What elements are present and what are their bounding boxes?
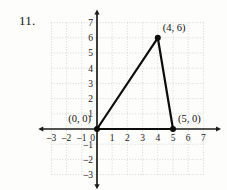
grid-horizontal-lines [51,23,203,175]
x-tick-label: 2 [125,133,130,143]
x-axis-right-arrowhead [216,126,221,131]
y-axis-bottom-arrowhead [94,184,99,189]
y-tick-label: 2 [88,94,93,104]
worksheet-figure: 11. –3–2–101234567 7654321–1–2–3 [0,0,227,190]
vertex-dot [155,35,161,41]
y-axis-top-arrowhead [94,9,99,14]
vertex-dot [170,126,176,132]
point-label: (4, 6) [163,22,186,34]
vertex-dot [94,126,100,132]
y-axis-tick-labels: 7654321–1–2–3 [83,18,94,180]
x-tick-label: 5 [171,133,176,143]
x-tick-label: 4 [155,133,160,143]
x-tick-label: –2 [61,133,72,143]
graph-svg: –3–2–101234567 7654321–1–2–3 (0, 0)(4, 6… [0,0,227,190]
x-axis-left-arrowhead [38,126,43,131]
y-tick-label: –3 [83,170,94,180]
y-tick-label: –2 [83,155,94,165]
x-axis-tick-labels: –3–2–101234567 [46,133,206,143]
x-tick-label: 1 [110,133,115,143]
x-tick-label: –3 [46,133,57,143]
y-tick-label: 3 [88,79,93,89]
point-label: (0, 0) [68,113,91,125]
x-tick-label: 3 [140,133,145,143]
y-tick-label: 7 [88,18,93,28]
y-tick-label: 6 [88,33,93,43]
x-tick-label: 7 [201,133,206,143]
y-tick-label: –1 [83,140,94,150]
y-tick-label: 5 [88,48,93,58]
x-tick-label: 6 [186,133,191,143]
axes [38,9,221,189]
coordinate-plane: –3–2–101234567 7654321–1–2–3 (0, 0)(4, 6… [0,0,227,190]
point-label: (5, 0) [178,113,201,125]
y-tick-label: 4 [88,64,93,74]
